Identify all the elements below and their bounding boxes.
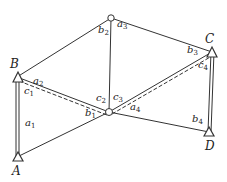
diagram-canvas: B A C D a1 b1 a2 c1 b2 a3 c2 c3 a4 b3 c4…: [0, 0, 227, 182]
edge-b-p2: [17, 18, 111, 77]
angle-label-b3: b3: [187, 45, 198, 57]
angle-label-a1: a1: [25, 118, 35, 130]
point-label-b: B: [10, 58, 19, 70]
angle-label-b2: b2: [98, 25, 109, 37]
triangle-a-icon: [13, 152, 23, 161]
edge-p1-c-dashed: [112, 56, 212, 114]
triangle-b-icon: [13, 72, 23, 82]
angle-label-a4: a4: [130, 102, 140, 114]
edge-c-d-2: [211, 52, 214, 132]
point-label-c: C: [205, 33, 214, 45]
angle-label-c3: c3: [113, 92, 123, 104]
angle-label-c1: c1: [24, 86, 34, 98]
angle-label-a3: a3: [117, 19, 127, 31]
edge-p2-p1: [109, 18, 111, 112]
point-label-d: D: [205, 140, 215, 152]
angle-label-a2: a2: [33, 76, 43, 88]
edge-c-d-1: [208, 52, 211, 132]
angle-label-c2: c2: [96, 93, 106, 105]
angle-label-c4: c4: [198, 60, 208, 72]
edge-p1-c: [109, 52, 212, 112]
node-top-icon: [108, 15, 114, 21]
triangle-c-icon: [207, 47, 217, 57]
angle-label-b4: b4: [192, 114, 203, 126]
point-label-a: A: [12, 165, 21, 177]
angle-label-b1: b1: [85, 108, 96, 120]
node-center-icon: [106, 109, 113, 116]
